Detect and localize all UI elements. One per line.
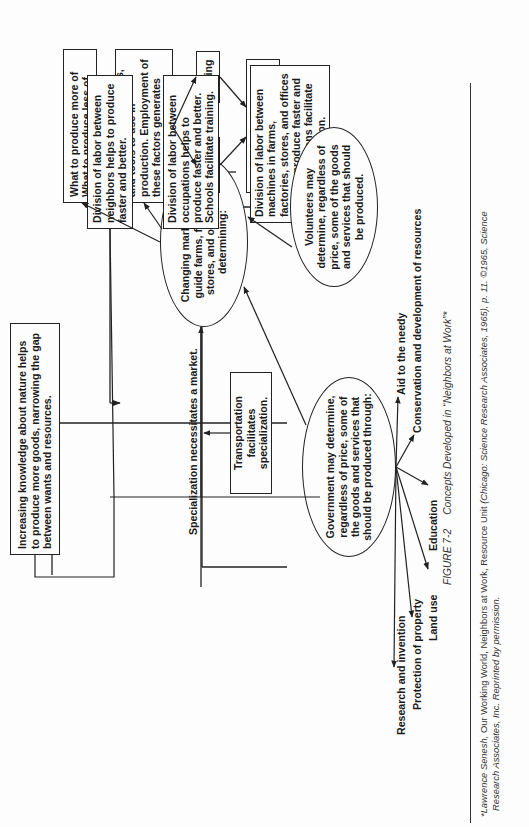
- rotated-page: Increasing knowledge about nature helps …: [0, 0, 529, 827]
- arrows: [0, 0, 529, 827]
